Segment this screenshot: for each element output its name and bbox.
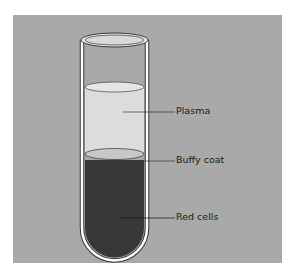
plasma-label: Plasma [176,105,210,116]
red-cells-layer [85,160,144,257]
plasma-layer [85,87,144,152]
test-tube-illustration [0,0,294,277]
buffy-coat-label: Buffy coat [176,154,224,165]
buffy-coat-layer [85,149,144,160]
red-cells-label: Red cells [176,211,218,222]
tube-rim-inner [85,35,144,45]
plasma-meniscus [85,82,144,92]
